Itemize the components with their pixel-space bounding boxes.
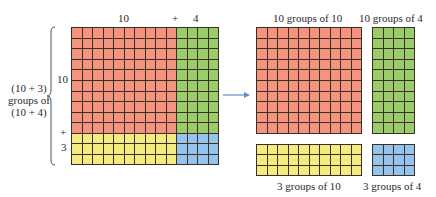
grid-cell (198, 92, 208, 102)
grid-cell (289, 39, 299, 49)
grid-cell (83, 49, 93, 59)
grid-cell (198, 123, 208, 133)
grid-cell (352, 81, 362, 91)
grid-cell (373, 28, 383, 38)
grid-cell (331, 70, 341, 80)
grid-cell (299, 92, 309, 102)
grid-cell (331, 39, 341, 49)
grid-cell (268, 113, 278, 123)
grid-cell (156, 123, 166, 133)
grid-cell (257, 28, 267, 38)
grid-cell (72, 92, 82, 102)
grid-cell (135, 60, 145, 70)
grid-cell (278, 81, 288, 91)
grid-cell (299, 166, 309, 175)
grid-cell (114, 102, 124, 112)
grid-cell (146, 28, 156, 38)
grid-cell (209, 123, 219, 133)
grid-cell (257, 39, 267, 49)
grid-cell (352, 60, 362, 70)
grid-cell (167, 102, 177, 112)
grid-cell (268, 39, 278, 49)
grid-cell (257, 60, 267, 70)
grid-cell (83, 123, 93, 133)
grid-cell (72, 113, 82, 123)
side-plus: + (60, 126, 66, 138)
grid-cell (198, 102, 208, 112)
grid-cell (373, 81, 383, 91)
grid-cell (257, 155, 267, 164)
brace-label-line3: (10 + 4) (6, 106, 52, 118)
grid-cell (146, 92, 156, 102)
grid-cell (72, 70, 82, 80)
right-arrow-icon (222, 90, 252, 100)
grid-cell (394, 28, 404, 38)
grid-cell (83, 39, 93, 49)
grid-cell (278, 155, 288, 164)
grid-cell (310, 49, 320, 59)
grid-cell (352, 92, 362, 102)
grid-cell (209, 113, 219, 123)
grid-cell (405, 81, 415, 91)
grid-cell (209, 144, 219, 153)
grid-cell (373, 49, 383, 59)
grid-cell (104, 134, 114, 143)
grid-cell (209, 70, 219, 80)
grid-cell (167, 113, 177, 123)
grid-cell (352, 49, 362, 59)
grid-cell (177, 81, 187, 91)
grid-cell (299, 28, 309, 38)
grid-cell (167, 49, 177, 59)
grid-cell (268, 49, 278, 59)
grid-cell (384, 81, 394, 91)
grid-cell (352, 155, 362, 164)
grid-cell (188, 49, 198, 59)
grid-cell (72, 60, 82, 70)
grid-cell (320, 155, 330, 164)
grid-cell (135, 134, 145, 143)
grid-cell (156, 102, 166, 112)
grid-cell (268, 92, 278, 102)
grid-cell (125, 92, 135, 102)
grid-cell (93, 134, 103, 143)
grid-cell (405, 70, 415, 80)
grid-cell (135, 92, 145, 102)
grid-cell (93, 144, 103, 153)
grid-cell (384, 166, 394, 175)
grid-cell (135, 39, 145, 49)
grid-cell (167, 70, 177, 80)
grid-cell (177, 28, 187, 38)
top-label-10: 10 (118, 12, 129, 24)
grid-cell (268, 70, 278, 80)
grid-cell (209, 102, 219, 112)
grid-cell (310, 39, 320, 49)
grid-cell (104, 155, 114, 164)
grid-cell (72, 39, 82, 49)
grid-cell (405, 123, 415, 133)
grid-cell (125, 81, 135, 91)
grid-cell (198, 70, 208, 80)
grid-cell (177, 123, 187, 133)
grid-cell (310, 145, 320, 154)
grid-cell (104, 60, 114, 70)
grid-cell (188, 92, 198, 102)
grid-cell (320, 39, 330, 49)
grid-cell (384, 145, 394, 154)
grid-cell (125, 60, 135, 70)
grid-cell (320, 49, 330, 59)
grid-cell (198, 39, 208, 49)
grid-cell (93, 60, 103, 70)
grid-cell (104, 49, 114, 59)
grid-cell (135, 81, 145, 91)
grid-cell (352, 145, 362, 154)
grid-cell (384, 70, 394, 80)
label-10-groups-of-4: 10 groups of 4 (359, 12, 423, 24)
grid-cell (167, 123, 177, 133)
grid-cell (384, 92, 394, 102)
grid-cell (146, 102, 156, 112)
grid-cell (289, 92, 299, 102)
grid-cell (310, 102, 320, 112)
grid-cell (373, 155, 383, 164)
grid-cell (104, 113, 114, 123)
grid-cell (278, 102, 288, 112)
